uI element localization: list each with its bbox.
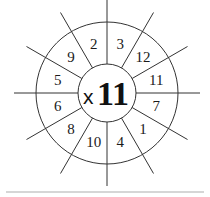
wheel-number: 11 [149, 72, 163, 88]
wheel-number: 5 [54, 72, 62, 88]
spoke-line [122, 118, 154, 173]
multiplier-value: 11 [97, 75, 129, 112]
spoke-line [61, 13, 93, 68]
wheel-number: 8 [67, 121, 75, 137]
wheel-number: 4 [116, 134, 124, 150]
bottom-divider [6, 191, 204, 193]
wheel-number: 6 [54, 98, 62, 114]
wheel-number: 2 [90, 36, 98, 52]
multiplication-wheel: 312117141086592 x 11 [0, 0, 210, 197]
wheel-number: 3 [116, 36, 124, 52]
wheel-number: 7 [153, 98, 161, 114]
wheel-number: 10 [86, 134, 101, 150]
wheel-number: 12 [136, 49, 151, 65]
times-operator: x [83, 85, 94, 108]
wheel-number: 1 [139, 121, 147, 137]
wheel-number: 9 [67, 49, 75, 65]
